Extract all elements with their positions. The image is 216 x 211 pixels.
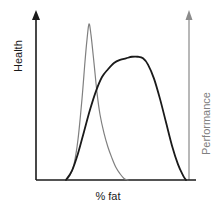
chart-figure: Health Performance % fat: [0, 0, 216, 211]
chart-plot-area: [0, 0, 216, 211]
y-axis-left-label: Health: [12, 40, 24, 72]
y-axis-right-label: Performance: [200, 92, 212, 155]
y-axis-left: [32, 10, 40, 180]
y-axis-right: [186, 10, 193, 180]
health-curve: [66, 24, 128, 180]
x-axis-label: % fat: [0, 190, 216, 202]
